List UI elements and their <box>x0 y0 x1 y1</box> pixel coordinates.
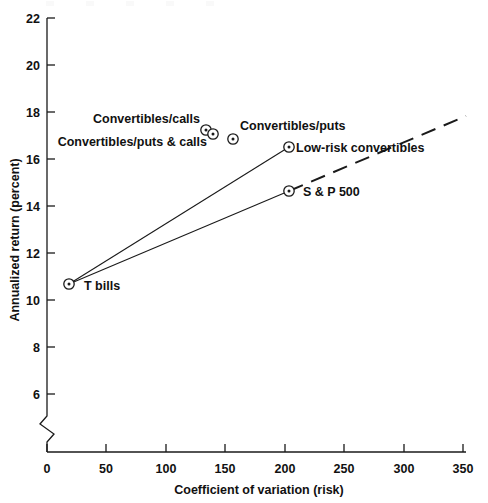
x-tick-label: 0 <box>44 462 51 476</box>
trend-line-sp500 <box>69 191 289 284</box>
data-point-t-bills <box>64 279 74 289</box>
x-axis-title: Coefficient of variation (risk) <box>174 483 343 497</box>
x-tick-label: 350 <box>453 462 474 476</box>
y-tick-label: 20 <box>26 59 40 73</box>
point-label-convertibles-calls: Convertibles/calls <box>93 112 200 126</box>
y-tick-label: 22 <box>26 12 40 26</box>
data-point-convertibles-puts <box>228 134 238 144</box>
y-tick-label: 8 <box>33 341 40 355</box>
point-label-convertibles-puts-calls: Convertibles/puts & calls <box>58 135 207 149</box>
x-tick-label: 50 <box>99 462 113 476</box>
scan-artifact <box>46 1 226 6</box>
x-tick-marks <box>47 444 463 452</box>
scatter-chart-figure: 22 20 18 16 14 12 10 8 6 0 50 100 150 <box>0 0 488 503</box>
chart-canvas: 22 20 18 16 14 12 10 8 6 0 50 100 150 <box>0 0 488 503</box>
x-tick-labels: 0 50 100 150 200 250 300 350 <box>44 462 474 476</box>
x-tick-label: 300 <box>394 462 415 476</box>
point-label-t-bills: T bills <box>84 279 120 293</box>
x-tick-label: 200 <box>275 462 296 476</box>
y-tick-label: 16 <box>26 153 40 167</box>
point-label-low-risk-convertibles: Low-risk convertibles <box>296 141 425 155</box>
point-label-convertibles-puts: Convertibles/puts <box>240 119 346 133</box>
y-tick-label: 10 <box>26 294 40 308</box>
point-label-sp500: S & P 500 <box>303 185 360 199</box>
trend-line-convertibles <box>69 147 289 284</box>
data-point-sp500 <box>284 186 294 196</box>
data-point-low-risk-convertibles <box>284 142 294 152</box>
x-tick-label: 250 <box>334 462 355 476</box>
y-tick-label: 6 <box>33 388 40 402</box>
y-axis-title: Annualized return (percent) <box>8 158 22 321</box>
y-tick-label: 12 <box>26 247 40 261</box>
y-tick-marks <box>47 18 55 394</box>
data-point-convertibles-puts-and-calls <box>208 129 218 139</box>
y-tick-label: 14 <box>26 200 40 214</box>
y-tick-label: 18 <box>26 106 40 120</box>
x-tick-label: 150 <box>215 462 236 476</box>
y-tick-labels: 22 20 18 16 14 12 10 8 6 <box>26 12 40 402</box>
x-tick-label: 100 <box>156 462 177 476</box>
